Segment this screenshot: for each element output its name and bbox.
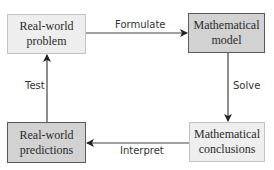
node-label-line2: conclusions	[194, 142, 260, 157]
edge-label-solve: Solve	[233, 80, 260, 92]
edge-label-formulate: Formulate	[115, 19, 166, 31]
node-real-world-predictions: Real-world predictions	[7, 122, 86, 163]
node-label-line1: Mathematical	[194, 127, 260, 142]
node-label-line1: Real-world	[20, 128, 74, 143]
edge-label-interpret: Interpret	[120, 145, 164, 157]
node-mathematical-conclusions: Mathematical conclusions	[189, 122, 265, 162]
node-label-line2: model	[194, 33, 260, 48]
edge-label-test: Test	[25, 80, 45, 92]
node-label-line1: Mathematical	[194, 18, 260, 33]
node-label-line2: problem	[20, 34, 74, 49]
node-label-line2: predictions	[20, 143, 74, 158]
node-real-world-problem: Real-world problem	[7, 14, 86, 54]
node-label-line1: Real-world	[20, 19, 74, 34]
node-mathematical-model: Mathematical model	[188, 13, 265, 53]
